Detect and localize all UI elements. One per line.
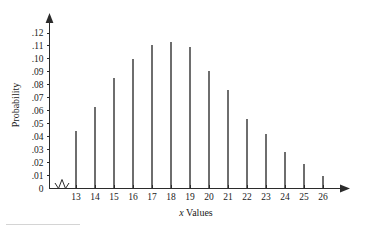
y-axis-tick-label: .01 <box>32 171 44 181</box>
x-axis-tick-label: 17 <box>147 192 157 202</box>
y-axis-tick-label: .06 <box>32 106 44 116</box>
y-axis-tick-label: .12 <box>32 28 44 38</box>
chart-canvas: 0.01.02.03.04.05.06.07.08.09.10.11.12 13… <box>0 0 366 234</box>
y-axis-tick-label: .09 <box>32 67 44 77</box>
y-axis-tick-label: 0 <box>39 184 44 194</box>
x-axis-tick-label: 13 <box>71 192 81 202</box>
y-axis-tick-label: .11 <box>32 41 44 51</box>
y-axis-tick-label: .03 <box>32 145 44 155</box>
stem-bar-group <box>76 42 323 188</box>
y-axis-tick-label: .07 <box>32 93 44 103</box>
x-axis-tick-label: 24 <box>280 192 290 202</box>
probability-distribution-chart: 0.01.02.03.04.05.06.07.08.09.10.11.12 13… <box>0 0 366 234</box>
y-axis-tick-label: .08 <box>32 80 44 90</box>
x-axis-arrowhead-icon <box>340 185 350 193</box>
x-axis-tick-label: 19 <box>185 192 195 202</box>
x-axis-tick-label: 14 <box>90 192 100 202</box>
x-axis-title: x Values <box>178 207 213 218</box>
x-axis-tick-group <box>76 185 323 189</box>
x-axis-tick-label: 18 <box>166 192 176 202</box>
x-axis-tick-label: 25 <box>299 192 309 202</box>
x-axis-tick-label: 20 <box>204 192 214 202</box>
y-axis-tick-label: .10 <box>32 54 44 64</box>
y-axis-tick-label-group: 0.01.02.03.04.05.06.07.08.09.10.11.12 <box>32 28 44 194</box>
bottom-divider-rule <box>6 224 80 225</box>
x-axis-tick-label: 23 <box>261 192 271 202</box>
x-axis-tick-label-group: 1314151617181920212223242526 <box>71 192 328 202</box>
y-axis-title: Probability <box>10 83 21 127</box>
y-axis-tick-label: .02 <box>32 158 44 168</box>
y-axis-arrowhead-icon <box>46 13 54 23</box>
x-axis-tick-label: 22 <box>242 192 252 202</box>
x-axis-tick-label: 21 <box>223 192 233 202</box>
x-axis-break-icon <box>55 180 69 189</box>
y-axis-tick-label: .05 <box>32 119 44 129</box>
y-axis-tick-label: .04 <box>32 132 44 142</box>
x-axis-tick-label: 16 <box>128 192 138 202</box>
x-axis-tick-label: 15 <box>109 192 119 202</box>
x-axis-tick-label: 26 <box>318 192 328 202</box>
